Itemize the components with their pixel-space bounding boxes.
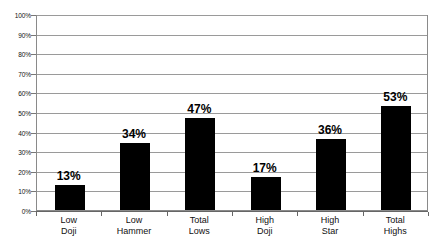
bar-chart: 0%10%20%30%40%50%60%70%80%90%100% 13%34%… [0, 0, 439, 252]
category-label: HighStar [295, 215, 365, 237]
gridline [37, 35, 427, 36]
category-label-line2: Star [295, 226, 365, 237]
bar-value-label: 17% [235, 162, 295, 175]
category-label-line1: Low [60, 215, 77, 225]
gridline [37, 74, 427, 75]
bar [55, 185, 85, 210]
y-tick-label: 70% [18, 70, 31, 77]
bar-value-label: 36% [300, 124, 360, 137]
y-tick-label: 40% [18, 129, 31, 136]
category-label-line1: High [255, 215, 274, 225]
category-label-line2: Doji [230, 226, 300, 237]
y-tick-label: 0% [22, 208, 31, 215]
y-tick-label: 10% [18, 188, 31, 195]
category-label-line2: Hammer [99, 226, 169, 237]
category-label-line1: Total [190, 215, 209, 225]
category-label-line1: Total [386, 215, 405, 225]
gridline [37, 191, 427, 192]
y-tick-label: 30% [18, 149, 31, 156]
bar-value-label: 13% [39, 170, 99, 183]
y-tick-label: 90% [18, 31, 31, 38]
bar-value-label: 47% [169, 103, 229, 116]
y-tick-label: 60% [18, 90, 31, 97]
category-label-line2: Highs [360, 226, 430, 237]
category-label-line2: Lows [164, 226, 234, 237]
category-label-line1: Low [126, 215, 143, 225]
bar [120, 143, 150, 210]
y-tick-label: 100% [15, 12, 31, 19]
category-label: LowDoji [34, 215, 104, 237]
category-label: TotalLows [164, 215, 234, 237]
y-tick-label: 80% [18, 51, 31, 58]
y-tick-label: 50% [18, 110, 31, 117]
y-axis: 0%10%20%30%40%50%60%70%80%90%100% [0, 0, 36, 252]
bar-value-label: 53% [365, 91, 425, 104]
gridline [37, 152, 427, 153]
category-label-line1: High [321, 215, 340, 225]
bar [381, 106, 411, 210]
category-label: HighDoji [230, 215, 300, 237]
y-tick-label: 20% [18, 168, 31, 175]
bar [185, 118, 215, 210]
category-label: TotalHighs [360, 215, 430, 237]
bar [316, 139, 346, 210]
gridline [37, 133, 427, 134]
gridline [37, 113, 427, 114]
category-label-line2: Doji [34, 226, 104, 237]
gridline [37, 54, 427, 55]
bar [251, 177, 281, 210]
category-label: LowHammer [99, 215, 169, 237]
bar-value-label: 34% [104, 128, 164, 141]
gridline [37, 15, 427, 16]
